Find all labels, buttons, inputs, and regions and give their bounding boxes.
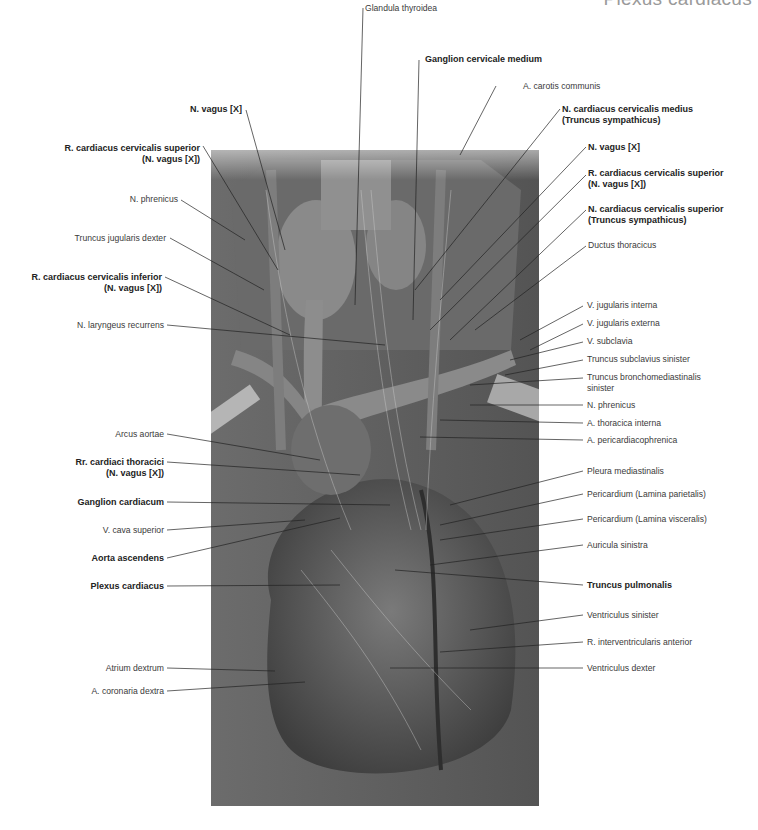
neck-fade — [180, 120, 580, 180]
page-title: Plexus cardiacus — [604, 0, 752, 10]
label-plexus-cardiacus: Plexus cardiacus — [90, 581, 164, 592]
label-n-vagus-right: N. vagus [X] — [588, 142, 640, 153]
label-r-cardiacus-cerv-sup-left: R. cardiacus cervicalis superior(N. vagu… — [64, 143, 200, 164]
label-n-cardiacus-cerv-medius: N. cardiacus cervicalis medius(Truncus s… — [562, 104, 693, 125]
label-a-thoracica-interna: A. thoracica interna — [587, 418, 661, 429]
label-n-phrenicus-left: N. phrenicus — [130, 194, 178, 205]
label-truncus-bronchomediastinalis: Truncus bronchomediastinalissinister — [587, 372, 701, 393]
label-r-cardiacus-cerv-inf: R. cardiacus cervicalis inferior(N. vagu… — [31, 272, 162, 293]
label-arcus-aortae: Arcus aortae — [115, 429, 164, 440]
label-v-cava-superior: V. cava superior — [103, 525, 164, 536]
label-truncus-subclavius-sinister: Truncus subclavius sinister — [587, 354, 690, 365]
label-pericardium-visceralis: Pericardium (Lamina visceralis) — [587, 514, 707, 525]
label-truncus-pulmonalis: Truncus pulmonalis — [587, 580, 672, 591]
label-ganglion-cervicale-medium: Ganglion cervicale medium — [425, 54, 542, 65]
label-r-cardiacus-cerv-sup-right: R. cardiacus cervicalis superior(N. vagu… — [588, 168, 724, 189]
label-a-coronaria-dextra: A. coronaria dextra — [91, 686, 164, 697]
label-v-subclavia: V. subclavia — [587, 336, 633, 347]
label-ventriculus-dexter: Ventriculus dexter — [587, 663, 655, 674]
anatomical-illustration — [211, 150, 539, 806]
label-rr-cardiaci-thoracici: Rr. cardiaci thoracici(N. vagus [X]) — [75, 457, 164, 478]
label-ganglion-cardiacum: Ganglion cardiacum — [77, 497, 164, 508]
label-v-jugularis-externa: V. jugularis externa — [587, 318, 660, 329]
label-a-pericardiacophrenica: A. pericardiacophrenica — [587, 435, 677, 446]
label-pericardium-parietalis: Pericardium (Lamina parietalis) — [587, 489, 706, 500]
label-aorta-ascendens: Aorta ascendens — [91, 553, 164, 564]
label-pleura-mediastinalis: Pleura mediastinalis — [587, 466, 664, 477]
label-n-cardiacus-cerv-sup: N. cardiacus cervicalis superior(Truncus… — [588, 204, 724, 225]
label-ductus-thoracicus: Ductus thoracicus — [588, 240, 656, 251]
label-v-jugularis-interna: V. jugularis interna — [587, 300, 657, 311]
label-n-laryngeus-recurrens: N. laryngeus recurrens — [77, 320, 164, 331]
label-atrium-dextrum: Atrium dextrum — [106, 663, 164, 674]
label-ventriculus-sinister: Ventriculus sinister — [587, 610, 659, 621]
label-glandula-thyroidea: Glandula thyroidea — [365, 3, 437, 14]
label-r-interventricularis-anterior: R. interventricularis anterior — [587, 637, 692, 648]
label-a-carotis-communis: A. carotis communis — [523, 81, 600, 92]
label-n-vagus-left: N. vagus [X] — [190, 104, 242, 115]
label-n-phrenicus-right: N. phrenicus — [587, 400, 635, 411]
label-auricula-sinistra: Auricula sinistra — [587, 540, 648, 551]
label-truncus-jugularis-dexter: Truncus jugularis dexter — [75, 233, 166, 244]
